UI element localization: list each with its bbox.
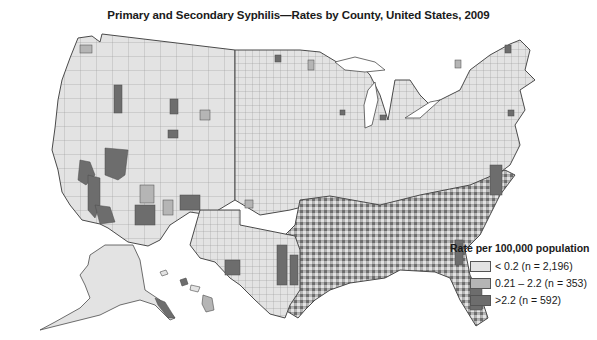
legend-title: Rate per 100,000 population bbox=[450, 242, 597, 254]
swatch-mid bbox=[470, 278, 491, 289]
swatch-low bbox=[470, 261, 491, 272]
legend-label-high: >2.2 (n = 592) bbox=[495, 294, 561, 306]
legend-item-low: < 0.2 (n = 2,196) bbox=[470, 260, 597, 272]
alaska bbox=[40, 245, 175, 330]
legend-label-low: < 0.2 (n = 2,196) bbox=[495, 260, 573, 272]
legend-item-high: >2.2 (n = 592) bbox=[470, 294, 597, 306]
legend-label-mid: 0.21 – 2.2 (n = 353) bbox=[495, 277, 587, 289]
swatch-high bbox=[470, 295, 491, 306]
hawaii bbox=[160, 270, 214, 312]
legend-item-mid: 0.21 – 2.2 (n = 353) bbox=[470, 277, 597, 289]
legend: Rate per 100,000 population < 0.2 (n = 2… bbox=[450, 242, 597, 311]
